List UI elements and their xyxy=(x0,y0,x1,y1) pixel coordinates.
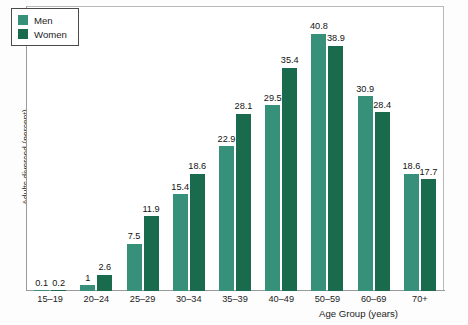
bar-women[interactable] xyxy=(190,174,205,291)
bar-men[interactable] xyxy=(34,290,49,291)
bar-group: 29.535.4 xyxy=(265,7,297,291)
chart-figure: Adults divorced (percent) 0.10.212.67.51… xyxy=(0,0,468,325)
bar-group: 7.511.9 xyxy=(127,7,159,291)
bar-group: 18.617.7 xyxy=(404,7,436,291)
bar-men[interactable] xyxy=(358,96,373,291)
bar-men[interactable] xyxy=(173,194,188,291)
bar-value-label: 35.4 xyxy=(274,56,305,65)
legend-item-men[interactable]: Men xyxy=(18,13,67,27)
bar-group: 15.418.6 xyxy=(173,7,205,291)
bar-value-label: 11.9 xyxy=(136,205,167,214)
bar-women[interactable] xyxy=(375,112,390,291)
bar-value-label: 40.8 xyxy=(303,22,334,31)
bar-value-label: 38.9 xyxy=(320,34,351,43)
legend-swatch-men-icon xyxy=(18,15,28,25)
bar-women[interactable] xyxy=(236,114,251,291)
bar-group: 12.6 xyxy=(80,7,112,291)
bar-value-label: 17.7 xyxy=(413,168,444,177)
bar-value-label: 28.4 xyxy=(367,101,398,110)
x-tick-label: 60–69 xyxy=(351,294,397,304)
bar-value-label: 0.2 xyxy=(43,279,74,288)
bar-women[interactable] xyxy=(51,290,66,291)
x-axis-tick-labels: 15–1920–2425–2930–3435–3940–4950–5960–69… xyxy=(27,294,443,308)
legend-item-women[interactable]: Women xyxy=(18,27,67,41)
bar-value-label: 2.6 xyxy=(89,263,120,272)
bar-group: 22.928.1 xyxy=(219,7,251,291)
x-tick-label: 70+ xyxy=(397,294,443,304)
bar-men[interactable] xyxy=(127,244,142,291)
bar-men[interactable] xyxy=(265,105,280,291)
bar-men[interactable] xyxy=(404,174,419,291)
x-tick-label: 30–34 xyxy=(166,294,212,304)
x-tick-label: 50–59 xyxy=(304,294,350,304)
x-tick-label: 20–24 xyxy=(73,294,119,304)
x-tick-label: 25–29 xyxy=(119,294,165,304)
bar-women[interactable] xyxy=(97,275,112,291)
chart-legend: Men Women xyxy=(11,8,79,46)
x-axis-title: Age Group (years) xyxy=(0,308,398,319)
x-tick-label: 15–19 xyxy=(27,294,73,304)
legend-swatch-women-icon xyxy=(18,29,28,39)
bar-series-container: 0.10.212.67.511.915.418.622.928.129.535.… xyxy=(27,7,443,291)
bar-men[interactable] xyxy=(311,34,326,291)
x-tick-label: 35–39 xyxy=(212,294,258,304)
legend-label-men: Men xyxy=(34,15,53,26)
bar-women[interactable] xyxy=(421,179,436,291)
bar-women[interactable] xyxy=(282,68,297,291)
bar-women[interactable] xyxy=(328,46,343,292)
legend-label-women: Women xyxy=(34,29,67,40)
bar-value-label: 30.9 xyxy=(350,85,381,94)
bar-value-label: 18.6 xyxy=(182,162,213,171)
bar-group: 0.10.2 xyxy=(34,7,66,291)
bar-men[interactable] xyxy=(219,146,234,291)
bar-men[interactable] xyxy=(80,285,95,291)
bar-value-label: 28.1 xyxy=(228,102,259,111)
bar-group: 30.928.4 xyxy=(358,7,390,291)
bar-women[interactable] xyxy=(144,216,159,291)
bar-group: 40.838.9 xyxy=(311,7,343,291)
x-tick-label: 40–49 xyxy=(258,294,304,304)
